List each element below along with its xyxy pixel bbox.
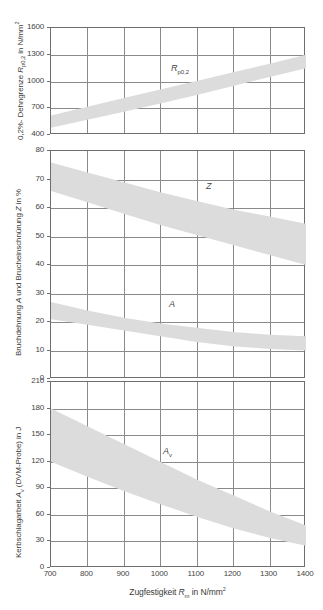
y-tick-label: 30 [0, 536, 44, 544]
x-tick-label: 900 [107, 570, 139, 578]
y-tick-label: 150 [0, 430, 44, 438]
figure-root: 0,2%- Dehngrenze Rp0,2 in N/mm2 40070010… [0, 0, 323, 610]
curve-label-sub: v [169, 452, 172, 458]
panel-av: Kerbschlagarbeit Av (DVM-Probe) in J 030… [0, 0, 323, 610]
y-label-symbol: A [14, 492, 23, 497]
x-label-suffix: in N/mm [189, 587, 222, 597]
x-tick-label: 1200 [216, 570, 248, 578]
x-label-sup: 2 [223, 586, 226, 592]
x-tick-label: 1400 [289, 570, 321, 578]
y-tick-label: 210 [0, 377, 44, 385]
y-tick-label: 120 [0, 457, 44, 465]
y-tick-label: 60 [0, 510, 44, 518]
x-tick-label: 1000 [143, 570, 175, 578]
x-axis-label: Zugfestigkeit Rm in N/mm2 [50, 586, 305, 599]
data-band [51, 409, 306, 546]
x-label-prefix: Zugfestigkeit [129, 587, 178, 597]
panel-av-band [51, 382, 306, 568]
y-tick-label: 90 [0, 483, 44, 491]
x-tick-label: 700 [34, 570, 66, 578]
y-label-prefix: Kerbschlagarbeit [14, 497, 23, 558]
panel-av-plot-area: Av [50, 381, 305, 567]
x-tick-label: 1100 [180, 570, 212, 578]
x-tick-label: 1300 [253, 570, 285, 578]
y-tick-label: 180 [0, 404, 44, 412]
y-tick-mark [47, 567, 50, 568]
curve-label-av: Av [163, 446, 172, 458]
x-tick-label: 800 [70, 570, 102, 578]
